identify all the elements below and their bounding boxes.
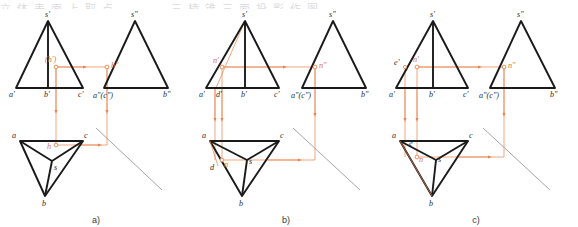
label-side-base-b1: a"(c") bbox=[291, 91, 311, 100]
point-marker-side-c bbox=[502, 65, 506, 69]
label-top-vertex-a2: b bbox=[42, 199, 46, 208]
label-side-base-a2: b" bbox=[163, 90, 171, 99]
point-marker-side-b bbox=[313, 65, 317, 69]
label-top-aux-b: d bbox=[210, 163, 215, 172]
figure-root: 立体表面上取点 —— 三棱锥三面投影作图 bbox=[0, 0, 578, 227]
projection-lines-b bbox=[215, 67, 315, 160]
label-front-base-a2: b' bbox=[44, 90, 50, 99]
front-view-c bbox=[396, 21, 468, 88]
panel-caption-c: c) bbox=[380, 215, 572, 225]
label-top-point-c: n bbox=[419, 155, 423, 164]
miter-line-a bbox=[96, 128, 162, 190]
panel-a: s' a' b' c' (h') s" a"(c") b" h" a b c s… bbox=[0, 0, 192, 227]
point-marker-top-a bbox=[54, 143, 58, 147]
label-top-vertex-c3: c bbox=[469, 131, 473, 140]
panel-b-drawing: s' a' d' b' c' n' s" a"(c") b" n" a b c … bbox=[190, 0, 382, 210]
label-side-apex-c: s" bbox=[517, 10, 524, 19]
label-front-base-a3: c' bbox=[78, 90, 84, 99]
label-top-vertex-a3: c bbox=[84, 131, 88, 140]
label-front-base-a1: a' bbox=[9, 90, 15, 99]
point-markers-a bbox=[54, 65, 109, 147]
label-side-point-c: n" bbox=[508, 61, 516, 70]
side-view-a bbox=[104, 21, 168, 88]
panel-caption-b: b) bbox=[190, 215, 382, 225]
side-view-c bbox=[490, 21, 555, 88]
panel-a-drawing: s' a' b' c' (h') s" a"(c") b" h" a b c s… bbox=[0, 0, 192, 210]
label-side-base-b2: b" bbox=[361, 90, 369, 99]
panel-caption-a: a) bbox=[0, 215, 192, 225]
label-side-apex-b: s" bbox=[329, 10, 336, 19]
top-view-c bbox=[400, 141, 468, 196]
label-front-apex-c: s' bbox=[430, 10, 435, 19]
label-side-base-c2: b" bbox=[550, 90, 558, 99]
label-top-aux-c: e bbox=[409, 139, 413, 148]
label-front-base-b1: a' bbox=[199, 90, 205, 99]
panel-c-drawing: s' a' b' c' n' e' s" a"(c") b" n" a b c … bbox=[380, 0, 572, 210]
label-front-base-c2: b' bbox=[429, 90, 435, 99]
point-markers-c bbox=[403, 65, 506, 159]
label-side-point-a: h" bbox=[111, 61, 119, 70]
projection-lines-a bbox=[56, 67, 107, 145]
point-marker-front-a bbox=[54, 65, 58, 69]
miter-line-c bbox=[483, 128, 550, 190]
top-view-b bbox=[210, 141, 279, 196]
label-front-base-b3: b' bbox=[241, 90, 247, 99]
label-top-vertex-b1: a bbox=[202, 131, 206, 140]
top-view-a bbox=[20, 141, 83, 196]
point-marker-side-a bbox=[105, 65, 109, 69]
label-front-aux-c: e' bbox=[394, 58, 400, 67]
miter-line-b bbox=[293, 128, 360, 190]
label-front-point-c: n' bbox=[413, 55, 419, 64]
label-front-point-a: (h') bbox=[45, 55, 57, 64]
label-side-base-a1: a"(c") bbox=[93, 91, 113, 100]
label-side-apex-a: s" bbox=[131, 10, 138, 19]
label-top-center-c: s bbox=[438, 155, 441, 164]
point-marker-front-c bbox=[415, 65, 419, 69]
panel-b: s' a' d' b' c' n' s" a"(c") b" n" a b c … bbox=[190, 0, 382, 227]
label-top-center-b: s bbox=[249, 157, 252, 166]
label-front-apex-b: s' bbox=[242, 10, 247, 19]
label-top-vertex-b2: b bbox=[239, 199, 243, 208]
front-view-b bbox=[206, 21, 279, 88]
aux-line-front-b bbox=[216, 21, 245, 88]
label-front-base-c3: c' bbox=[463, 90, 469, 99]
point-marker-aux-front-c bbox=[403, 65, 406, 68]
label-side-point-b: n" bbox=[319, 61, 327, 70]
panel-c: s' a' b' c' n' e' s" a"(c") b" n" a b c … bbox=[380, 0, 572, 227]
label-side-base-c1: a"(c") bbox=[479, 91, 499, 100]
label-front-apex-a: s' bbox=[45, 10, 50, 19]
point-marker-front-b bbox=[220, 65, 224, 69]
side-view-b bbox=[302, 21, 366, 88]
label-top-vertex-c1: a bbox=[392, 131, 396, 140]
label-front-point-b: n' bbox=[213, 56, 219, 65]
projection-lines-c bbox=[405, 67, 504, 157]
label-top-vertex-b3: c bbox=[280, 131, 284, 140]
label-top-point-b: n bbox=[224, 160, 228, 169]
label-front-base-b2: d' bbox=[216, 90, 222, 99]
label-front-base-b4: c' bbox=[274, 90, 280, 99]
label-top-vertex-a1: a bbox=[12, 131, 16, 140]
label-top-point-a: h bbox=[47, 142, 51, 151]
label-top-center-a: s bbox=[54, 163, 57, 172]
label-front-base-c1: a' bbox=[389, 90, 395, 99]
label-top-vertex-c2: b bbox=[429, 199, 433, 208]
